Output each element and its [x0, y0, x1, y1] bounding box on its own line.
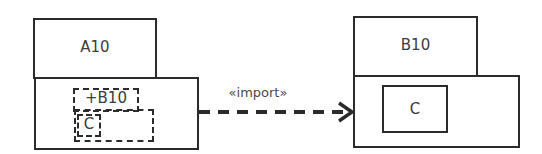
element-c-label: C [382, 100, 448, 118]
import-stereotype-label: «import» [222, 85, 294, 100]
package-b10-name: B10 [353, 36, 478, 54]
